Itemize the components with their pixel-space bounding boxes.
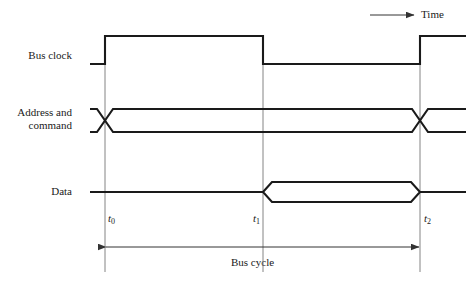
data-valid-window: [263, 182, 420, 202]
time-guide-lines: [105, 36, 420, 272]
waveform-data: [90, 182, 466, 202]
waveform-bus-clock: [90, 36, 466, 64]
waveform-canvas: [0, 0, 468, 284]
waveform-address-and-command: [90, 109, 466, 132]
timing-diagram-figure: Bus clock Address and command Data Time …: [0, 0, 468, 284]
